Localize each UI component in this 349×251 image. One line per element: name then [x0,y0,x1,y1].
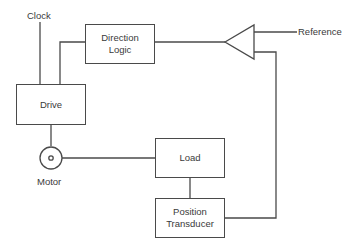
load-label: Load [179,152,200,164]
clock-label: Clock [27,10,51,21]
feedback-line [224,52,276,218]
direction-logic-label-2: Logic [109,44,132,56]
motor-icon [40,147,62,169]
logic-to-drive-line [60,42,85,84]
drive-block: Drive [16,84,86,125]
drive-label: Drive [40,99,62,111]
direction-logic-block: Direction Logic [85,24,155,64]
comparator-triangle-icon [225,25,254,59]
direction-logic-label-1: Direction [101,32,139,44]
position-transducer-block: Position Transducer [155,198,225,238]
motor-label: Motor [37,176,61,187]
load-block: Load [155,138,225,178]
reference-label: Reference [298,26,342,37]
position-transducer-label-2: Transducer [166,218,214,230]
position-transducer-label-1: Position [173,206,207,218]
